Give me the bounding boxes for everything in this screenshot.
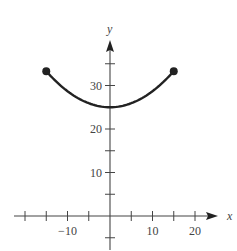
- chart-container: −101020102030 x y: [0, 0, 237, 251]
- curve-plot: −101020102030 x y: [0, 0, 237, 251]
- y-tick-label: 20: [90, 122, 102, 136]
- tick-labels: −101020102030: [58, 79, 201, 239]
- x-tick-label: 20: [189, 224, 201, 238]
- x-axis-label: x: [226, 209, 233, 223]
- endpoint-dot: [170, 67, 178, 75]
- y-axis-label: y: [106, 22, 113, 36]
- endpoint-dot: [42, 67, 50, 75]
- y-tick-label: 30: [90, 79, 102, 93]
- y-tick-label: 10: [90, 166, 102, 180]
- x-tick-label: −10: [58, 224, 77, 238]
- x-tick-label: 10: [147, 224, 159, 238]
